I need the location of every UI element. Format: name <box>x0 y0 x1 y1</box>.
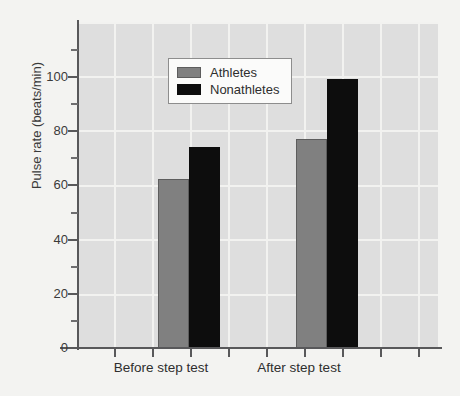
y-tick-minor-50 <box>71 212 78 214</box>
bar-athletes-before-step-test[interactable] <box>158 179 189 348</box>
y-tick-minor-10 <box>71 320 78 322</box>
legend-item-athletes: Athletes <box>177 64 279 81</box>
gridline-horizontal <box>78 294 438 296</box>
gridline-horizontal <box>78 22 438 24</box>
y-tick-minor-70 <box>71 157 78 159</box>
gridline-horizontal <box>78 185 438 187</box>
x-label-after-step-test: After step test <box>241 360 357 375</box>
y-tick-80 <box>68 130 78 132</box>
chart-legend: Athletes Nonathletes <box>168 58 292 104</box>
x-tick <box>342 349 344 357</box>
gridline-horizontal <box>78 239 438 241</box>
x-label-before-step-test: Before step test <box>100 360 222 375</box>
bar-nonathletes-before-step-test[interactable] <box>189 147 220 348</box>
gridline-horizontal <box>78 130 438 132</box>
athletes-swatch-icon <box>177 67 201 78</box>
x-tick <box>190 349 192 357</box>
y-tick-40 <box>68 239 78 241</box>
bar-nonathletes-after-step-test[interactable] <box>327 79 358 348</box>
y-tick-minor-30 <box>71 266 78 268</box>
x-tick <box>266 349 268 357</box>
x-tick <box>418 349 420 357</box>
x-tick <box>304 349 306 357</box>
legend-label-athletes: Athletes <box>210 66 257 79</box>
y-tick-label-40: 40 <box>26 233 68 246</box>
x-tick <box>228 349 230 357</box>
y-tick-100 <box>68 76 78 78</box>
x-axis-line <box>60 347 442 349</box>
y-tick-minor-90 <box>71 103 78 105</box>
y-tick-label-0: 0 <box>26 341 68 354</box>
legend-label-nonathletes: Nonathletes <box>210 83 279 96</box>
y-axis-title: Pulse rate (beats/min) <box>29 26 44 226</box>
bar-athletes-after-step-test[interactable] <box>296 139 327 348</box>
nonathletes-swatch-icon <box>177 84 201 95</box>
y-tick-minor-110 <box>71 49 78 51</box>
plot-area: Athletes Nonathletes <box>78 22 438 348</box>
x-tick <box>152 349 154 357</box>
y-tick-0 <box>68 347 78 349</box>
y-tick-20 <box>68 293 78 295</box>
y-tick-60 <box>68 184 78 186</box>
legend-item-nonathletes: Nonathletes <box>177 81 279 98</box>
x-tick <box>380 349 382 357</box>
x-tick <box>114 349 116 357</box>
y-tick-label-20: 20 <box>26 287 68 300</box>
chart-page: Athletes Nonathletes 100 80 60 40 20 0 P… <box>0 0 460 396</box>
